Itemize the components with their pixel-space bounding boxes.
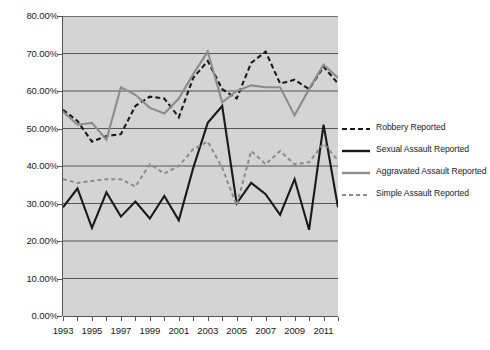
x-tick-mark <box>266 317 267 321</box>
x-tick-label: 2003 <box>194 325 222 336</box>
x-tick-mark <box>193 317 194 321</box>
x-tick-mark <box>208 317 209 321</box>
x-tick-mark <box>237 317 238 321</box>
y-tick-label: 60.00% <box>26 86 58 96</box>
legend-label: Aggravated Assault Reported <box>376 166 486 176</box>
x-tick-label: 2009 <box>281 325 309 336</box>
legend-item[interactable]: Robbery Reported <box>342 116 490 138</box>
legend-item[interactable]: Sexual Assault Reported <box>342 138 490 160</box>
x-tick-mark <box>164 317 165 321</box>
legend-swatch-icon <box>342 143 370 155</box>
x-tick-mark <box>324 317 325 321</box>
chart-container: 80.00%70.00%60.00%50.00%40.00%30.00%20.0… <box>0 0 490 350</box>
x-tick-mark <box>309 317 310 321</box>
y-tick-label: 30.00% <box>26 199 58 209</box>
x-tick-label: 2001 <box>165 325 193 336</box>
y-tick-mark <box>57 279 62 280</box>
y-tick-label: 70.00% <box>26 49 58 59</box>
x-axis-line <box>63 316 338 317</box>
y-tick-label: 80.00% <box>26 11 58 21</box>
chart-legend: Robbery ReportedSexual Assault ReportedA… <box>342 116 490 204</box>
x-tick-mark <box>338 317 339 321</box>
x-tick-mark <box>179 317 180 321</box>
legend-label: Robbery Reported <box>376 122 445 132</box>
series-line <box>63 52 338 140</box>
x-tick-mark <box>77 317 78 321</box>
x-tick-mark <box>92 317 93 321</box>
legend-label: Simple Assault Reported <box>376 188 469 198</box>
legend-swatch-icon <box>342 187 370 199</box>
x-tick-label: 2007 <box>252 325 280 336</box>
plot-area <box>63 16 338 316</box>
x-tick-mark <box>106 317 107 321</box>
x-tick-mark <box>295 317 296 321</box>
legend-item[interactable]: Aggravated Assault Reported <box>342 160 490 182</box>
y-tick-mark <box>57 204 62 205</box>
x-tick-mark <box>121 317 122 321</box>
x-tick-mark <box>135 317 136 321</box>
y-tick-mark <box>57 241 62 242</box>
x-tick-label: 2005 <box>223 325 251 336</box>
y-tick-label: 0.00% <box>32 311 58 321</box>
x-tick-mark <box>251 317 252 321</box>
x-tick-mark <box>280 317 281 321</box>
y-tick-mark <box>57 91 62 92</box>
y-tick-label: 50.00% <box>26 124 58 134</box>
legend-swatch-icon <box>342 121 370 133</box>
x-tick-label: 1997 <box>107 325 135 336</box>
x-tick-mark <box>222 317 223 321</box>
y-tick-label: 40.00% <box>26 161 58 171</box>
x-tick-mark <box>63 317 64 321</box>
y-tick-mark <box>57 166 62 167</box>
y-tick-mark <box>57 316 62 317</box>
x-tick-label: 1993 <box>49 325 77 336</box>
legend-label: Sexual Assault Reported <box>376 144 469 154</box>
y-axis: 80.00%70.00%60.00%50.00%40.00%30.00%20.0… <box>0 0 58 350</box>
x-tick-mark <box>150 317 151 321</box>
x-tick-label: 1995 <box>78 325 106 336</box>
x-tick-label: 2011 <box>310 325 338 336</box>
y-tick-mark <box>57 129 62 130</box>
legend-swatch-icon <box>342 165 370 177</box>
legend-item[interactable]: Simple Assault Reported <box>342 182 490 204</box>
y-tick-label: 20.00% <box>26 236 58 246</box>
y-tick-label: 10.00% <box>26 274 58 284</box>
x-tick-label: 1999 <box>136 325 164 336</box>
series-line <box>63 106 338 230</box>
y-tick-mark <box>57 16 62 17</box>
plot-svg <box>63 16 338 316</box>
y-tick-mark <box>57 54 62 55</box>
